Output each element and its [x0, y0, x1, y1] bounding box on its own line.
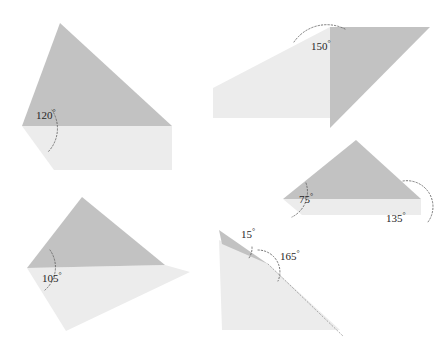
angles-illustration: 120° 150° 75° 135° [0, 0, 446, 350]
figure-150-dark-region [330, 27, 430, 128]
figure-165-label: 165° [280, 249, 300, 262]
figure-150: 150° [213, 25, 430, 128]
figure-135-label: 135° [386, 211, 406, 224]
figure-105: 105° [27, 197, 190, 331]
figure-105-dark-region [27, 197, 165, 268]
figure-75-135-dark-region [283, 140, 421, 199]
figure-15-165: 15° 165° [219, 227, 344, 337]
geometry-figure-canvas: 120° 150° 75° 135° [0, 0, 446, 350]
figure-120: 120° [22, 23, 172, 170]
figure-75-135: 75° 135° [283, 140, 433, 224]
figure-120-light-region [22, 126, 172, 170]
figure-15-label: 15° [241, 227, 255, 240]
